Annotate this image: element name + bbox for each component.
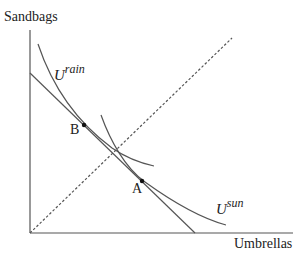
diagram-canvas: Sandbags Umbrellas Urain Usun B A xyxy=(0,0,308,261)
u-rain-curve xyxy=(38,44,154,166)
u-sun-label: Usun xyxy=(216,196,244,217)
u-sun-curve xyxy=(101,115,226,225)
y-axis-label: Sandbags xyxy=(4,9,58,24)
u-sun-label-sup: sun xyxy=(227,196,244,210)
u-rain-label: Urain xyxy=(54,62,85,83)
u-rain-label-sup: rain xyxy=(65,62,85,76)
point-b-marker xyxy=(82,123,86,127)
x-axis-label: Umbrellas xyxy=(234,236,292,251)
point-a-label: A xyxy=(132,181,143,196)
point-b-label: B xyxy=(70,122,79,137)
